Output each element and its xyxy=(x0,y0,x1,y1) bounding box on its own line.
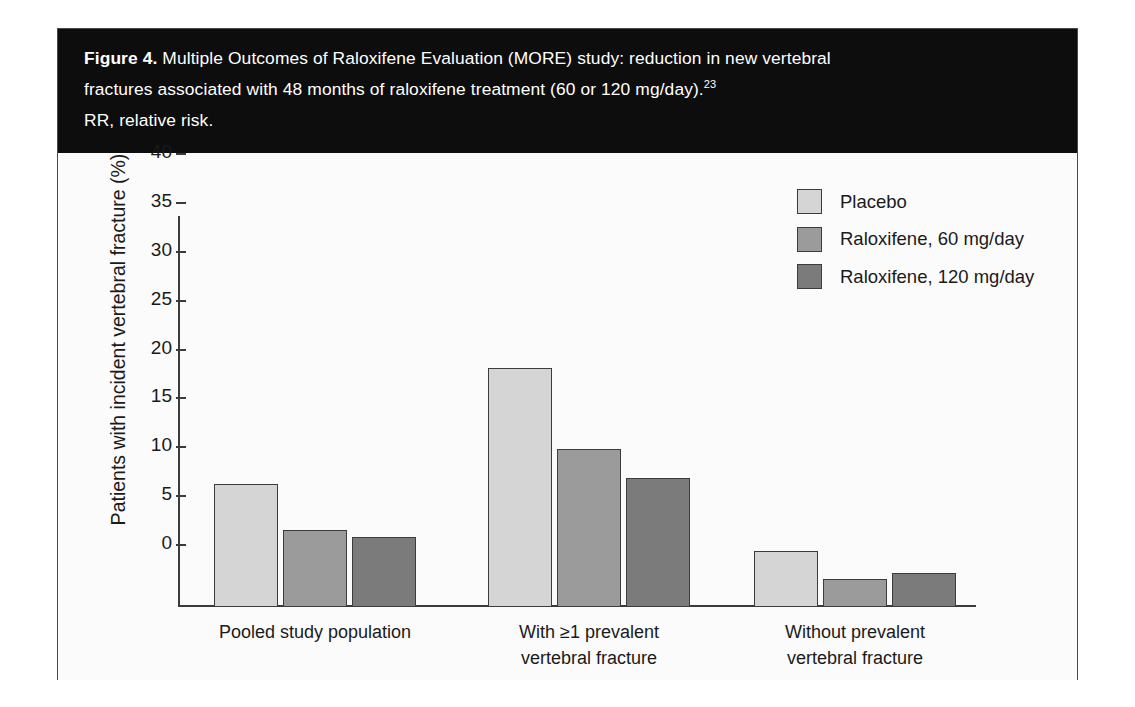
legend-swatch xyxy=(797,227,822,252)
y-axis-tick-mark xyxy=(176,202,186,204)
figure-caption-line-3: RR, relative risk. xyxy=(84,110,213,130)
figure-page: Figure 4. Multiple Outcomes of Raloxifen… xyxy=(0,0,1135,707)
y-axis-tick-label: 15 xyxy=(126,385,172,407)
figure-label: Figure 4. xyxy=(84,48,157,68)
y-axis-tick: 25 xyxy=(116,300,186,301)
x-axis-group-label: Pooled study population xyxy=(165,619,465,645)
y-axis-tick: 20 xyxy=(116,349,186,350)
legend-swatch xyxy=(797,189,822,214)
figure-caption-line-2: fractures associated with 48 months of r… xyxy=(84,79,704,99)
bar xyxy=(823,579,887,607)
y-axis-tick-label: 40 xyxy=(126,141,172,163)
y-axis-tick-label: 0 xyxy=(126,532,172,554)
y-axis-tick-label: 10 xyxy=(126,434,172,456)
legend-label: Raloxifene, 60 mg/day xyxy=(840,228,1024,250)
figure-caption-reference: 23 xyxy=(704,78,716,90)
bar xyxy=(488,368,552,607)
y-axis-tick-label: 20 xyxy=(126,337,172,359)
y-axis-tick-label: 30 xyxy=(126,239,172,261)
legend-swatch xyxy=(797,264,822,289)
figure-caption-line-1: Multiple Outcomes of Raloxifene Evaluati… xyxy=(162,48,830,68)
legend-label: Placebo xyxy=(840,191,907,213)
x-axis-group-label-line: Pooled study population xyxy=(165,619,465,645)
bar xyxy=(626,478,690,607)
bar xyxy=(892,573,956,607)
figure-frame: Figure 4. Multiple Outcomes of Raloxifen… xyxy=(57,28,1078,680)
y-axis-tick-label: 25 xyxy=(126,288,172,310)
y-axis-tick: 10 xyxy=(116,446,186,447)
x-axis-group-label-line: vertebral fracture xyxy=(705,645,1005,671)
bar xyxy=(214,484,278,607)
legend-item: Placebo xyxy=(797,189,1034,214)
figure-caption-band: Figure 4. Multiple Outcomes of Raloxifen… xyxy=(58,29,1077,153)
x-axis-group-label: With ≥1 prevalentvertebral fracture xyxy=(439,619,739,671)
bar xyxy=(352,537,416,607)
y-axis-tick: 15 xyxy=(116,397,186,398)
x-axis-group-label: Without prevalentvertebral fracture xyxy=(705,619,1005,671)
figure-caption-text: Figure 4. Multiple Outcomes of Raloxifen… xyxy=(84,43,1051,136)
legend-item: Raloxifene, 120 mg/day xyxy=(797,264,1034,289)
y-axis-tick: 0 xyxy=(116,544,186,545)
y-axis-tick: 5 xyxy=(116,495,186,496)
y-axis-tick: 40 xyxy=(116,153,186,154)
legend-label: Raloxifene, 120 mg/day xyxy=(840,266,1034,288)
x-axis-group-label-line: With ≥1 prevalent xyxy=(439,619,739,645)
x-axis-group-label-line: vertebral fracture xyxy=(439,645,739,671)
y-axis-tick: 30 xyxy=(116,251,186,252)
y-axis-tick-label: 5 xyxy=(126,483,172,505)
bar xyxy=(283,530,347,607)
y-axis-tick-mark xyxy=(176,153,186,155)
legend-item: Raloxifene, 60 mg/day xyxy=(797,227,1034,252)
y-axis-tick-label: 35 xyxy=(126,190,172,212)
x-axis-group-label-line: Without prevalent xyxy=(705,619,1005,645)
y-axis-tick: 35 xyxy=(116,202,186,203)
chart-plot-area: Patients with incident vertebral fractur… xyxy=(58,153,1077,680)
bar xyxy=(754,551,818,607)
chart-legend: PlaceboRaloxifene, 60 mg/dayRaloxifene, … xyxy=(797,189,1034,302)
bar xyxy=(557,449,621,607)
